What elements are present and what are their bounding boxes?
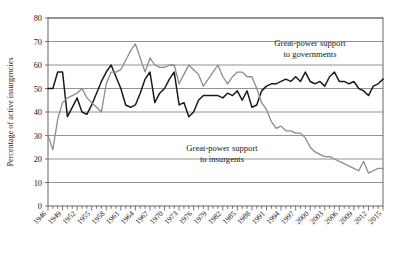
y-axis-tick-label: 30 [34,132,42,141]
x-axis-tick-label: 2015 [366,209,383,226]
x-axis-tick-label: 1964 [119,209,136,226]
x-axis-tick-label: 2009 [337,209,354,226]
governments-annotation-line1: Great-power support [274,38,346,48]
y-axis-tick-label: 10 [34,179,42,188]
y-axis-tick-label: 60 [34,61,42,70]
x-axis-tick-label: 1949 [46,209,63,226]
x-axis-tick-label: 2006 [323,209,340,226]
insurgents-annotation-line2: to insurgents [200,154,245,164]
chart-container: 1946194919521955195819611964196719701973… [0,0,404,264]
y-axis-tick-labels-group: 01020304050607080 [34,14,42,211]
x-axis-tick-label: 1985 [221,209,238,226]
x-axis-tick-label: 1988 [235,209,252,226]
x-axis-tick-label: 2012 [352,209,369,226]
y-axis-tick-label: 40 [34,108,42,117]
x-axis-tick-label: 1979 [192,209,209,226]
y-axis-title: Percentage of active insurgencies [6,57,15,166]
insurgency-support-line-chart: 1946194919521955195819611964196719701973… [0,0,404,264]
x-axis-tick-label: 1946 [31,209,48,226]
x-axis-tick-label: 2003 [308,209,325,226]
x-axis-tick-label: 1991 [250,209,267,226]
y-axis-tick-label: 0 [38,202,42,211]
x-axis-tick-label: 1952 [60,209,77,226]
x-axis-tick-label: 1982 [206,209,223,226]
governments-annotation-line2: to governments [283,49,337,59]
x-axis-tick-label: 1970 [148,209,165,226]
x-axis-tick-label: 1961 [104,209,121,226]
x-axis-tick-label: 1973 [162,209,179,226]
y-axis-tick-label: 50 [34,85,42,94]
x-axis-tick-label: 2000 [293,209,310,226]
y-axis-tick-label: 20 [34,155,42,164]
x-axis-tick-label: 1967 [133,209,150,226]
x-axis-tick-label: 1976 [177,209,194,226]
x-axis-tick-labels-group: 1946194919521955195819611964196719701973… [31,209,383,226]
x-axis-tick-label: 1958 [90,209,107,226]
y-axis-title-group: Percentage of active insurgencies [6,57,15,166]
x-axis-tick-label: 1955 [75,209,92,226]
x-axis-tick-label: 1997 [279,209,296,226]
y-axis-tick-label: 70 [34,38,42,47]
y-axis-tick-label: 80 [34,14,42,23]
x-axis-tick-label: 1994 [264,209,281,226]
insurgents-annotation-line1: Great-power support [186,143,258,153]
